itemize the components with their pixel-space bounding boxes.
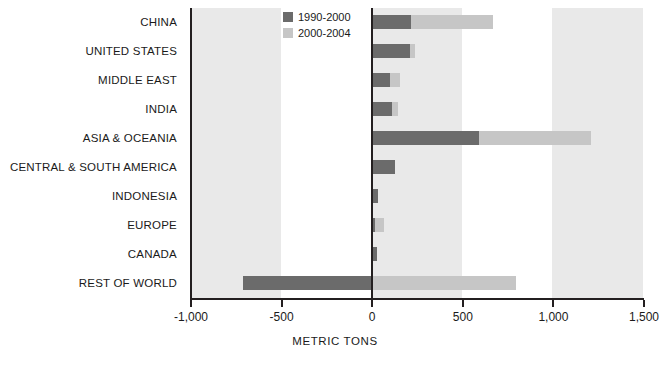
y-axis-label: INDIA [145,95,177,124]
legend-label: 2000-2004 [298,27,351,39]
x-tick-label: 0 [369,310,376,324]
y-axis-label: EUROPE [127,211,177,240]
x-tick-label: 500 [453,310,473,324]
bar-segment-1990-2000 [371,160,395,174]
zero-axis-line [371,8,373,298]
bar-segment-2000-2004 [375,218,384,232]
bar-row [190,211,643,240]
y-axis-label: CHINA [140,8,177,37]
bar-segment-1990-2000 [371,73,390,87]
bar-segment-2000-2004 [479,131,591,145]
x-tick-mark [643,300,645,307]
x-tick-label: -1,000 [174,310,208,324]
x-tick-label: 1,500 [629,310,659,324]
y-axis-label: UNITED STATES [85,37,177,66]
bar-segment-2000-2004 [392,102,398,116]
bar-segment-2000-2004 [371,276,516,290]
bar-segment-1990-2000 [371,102,392,116]
y-axis-label: MIDDLE EAST [98,66,177,95]
y-axis-label: ASIA & OCEANIA [83,124,177,153]
bar-row [190,153,643,182]
x-tick-label: -500 [270,310,294,324]
bar-row [190,124,643,153]
x-tick-mark [552,300,554,307]
y-axis-line [190,8,192,298]
x-axis-line [190,298,644,300]
legend-item: 1990-2000 [283,10,375,24]
x-tick-mark [190,300,192,307]
x-tick-mark [281,300,283,307]
bar-segment-2000-2004 [390,73,400,87]
bar-row [190,8,643,37]
chart-legend: 1990-20002000-2004 [283,10,375,42]
bar-row [190,182,643,211]
y-axis-label: CENTRAL & SOUTH AMERICA [10,153,177,182]
bar-segment-1990-2000 [371,15,411,29]
bar-row [190,269,643,298]
bar-row [190,66,643,95]
x-tick-mark [371,300,373,307]
plot-area [190,8,643,298]
legend-swatch-icon [283,12,293,22]
legend-swatch-icon [283,28,293,38]
bar-row [190,95,643,124]
bar-row [190,37,643,66]
x-tick-label: 1,000 [538,310,568,324]
legend-label: 1990-2000 [298,11,351,23]
bar-segment-1990-2000 [371,44,410,58]
x-tick-mark [462,300,464,307]
bar-row [190,240,643,269]
legend-item: 2000-2004 [283,26,375,40]
y-axis-label: CANADA [128,240,177,269]
x-axis-title: METRIC TONS [0,335,670,347]
bar-chart: CHINAUNITED STATESMIDDLE EASTINDIAASIA &… [0,0,670,365]
bar-segment-2000-2004 [410,44,415,58]
y-axis-label: REST OF WORLD [79,269,177,298]
bar-segment-1990-2000 [371,131,479,145]
bar-segment-1990-2000 [243,276,371,290]
y-axis-label: INDONESIA [112,182,177,211]
y-axis-labels: CHINAUNITED STATESMIDDLE EASTINDIAASIA &… [0,8,185,298]
bar-segment-2000-2004 [411,15,493,29]
